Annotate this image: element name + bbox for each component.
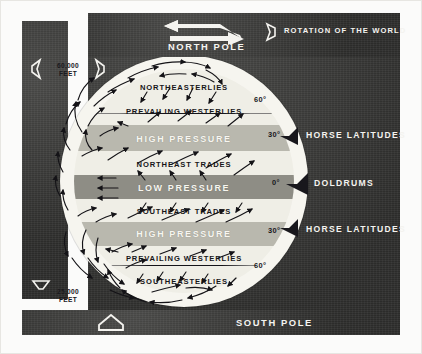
band-label-low-pressure: LOW PRESSURE xyxy=(60,183,308,193)
lat-label-60-n: 60° xyxy=(254,95,266,104)
lat-label-60-s: 60° xyxy=(254,261,266,270)
band-label-prevailing-westerlies-n: PREVAILING WESTERLIES xyxy=(60,107,308,116)
circulation-diagram: NORTHEASTERLIES PREVAILING WESTERLIES HI… xyxy=(0,0,422,354)
band-label-northeast-trades: NORTHEAST TRADES xyxy=(60,160,308,169)
altitude-top-value: 60,000 FEET xyxy=(46,62,90,78)
band-label-southeast-trades: SOUTHEAST TRADES xyxy=(60,207,308,216)
doldrums-label: DOLDRUMS xyxy=(314,178,374,188)
hollow-right-arrow-icon xyxy=(92,58,108,80)
south-pole-label: SOUTH POLE xyxy=(236,317,313,328)
band-label-southeasterlies: SOUTHEASTERLIES xyxy=(60,277,308,286)
lat-label-0: 0° xyxy=(272,178,280,187)
hollow-diamond-icon xyxy=(264,22,278,42)
horse-latitudes-south-label: HORSE LATITUDES xyxy=(306,224,406,234)
hollow-up-arrow-icon xyxy=(96,313,126,333)
rotation-of-the-world-label: ROTATION OF THE WORLD xyxy=(284,26,406,35)
altitude-top-unit: FEET xyxy=(59,70,77,77)
band-label-northeasterlies: NORTHEASTERLIES xyxy=(60,83,308,92)
globe: NORTHEASTERLIES PREVAILING WESTERLIES HI… xyxy=(60,55,308,307)
black-left-arrow-icon-horse-s xyxy=(278,218,300,238)
band-label-prevailing-westerlies-s: PREVAILING WESTERLIES xyxy=(60,254,308,263)
background-panel-bottom xyxy=(22,310,400,335)
polar-front-line-south xyxy=(92,265,278,266)
black-left-arrow-icon-doldrums xyxy=(284,172,310,196)
horse-latitudes-north-label: HORSE LATITUDES xyxy=(306,130,406,140)
altitude-bottom-number: 25,000 xyxy=(57,288,79,295)
altitude-top-number: 60,000 xyxy=(57,62,79,69)
north-pole-label: NORTH POLE xyxy=(168,41,245,52)
altitude-bottom-value: 25,000 FEET xyxy=(46,288,90,304)
black-left-arrow-icon-horse-n xyxy=(278,126,300,146)
hollow-left-arrow-icon xyxy=(28,58,44,80)
altitude-bottom-unit: FEET xyxy=(59,296,77,303)
